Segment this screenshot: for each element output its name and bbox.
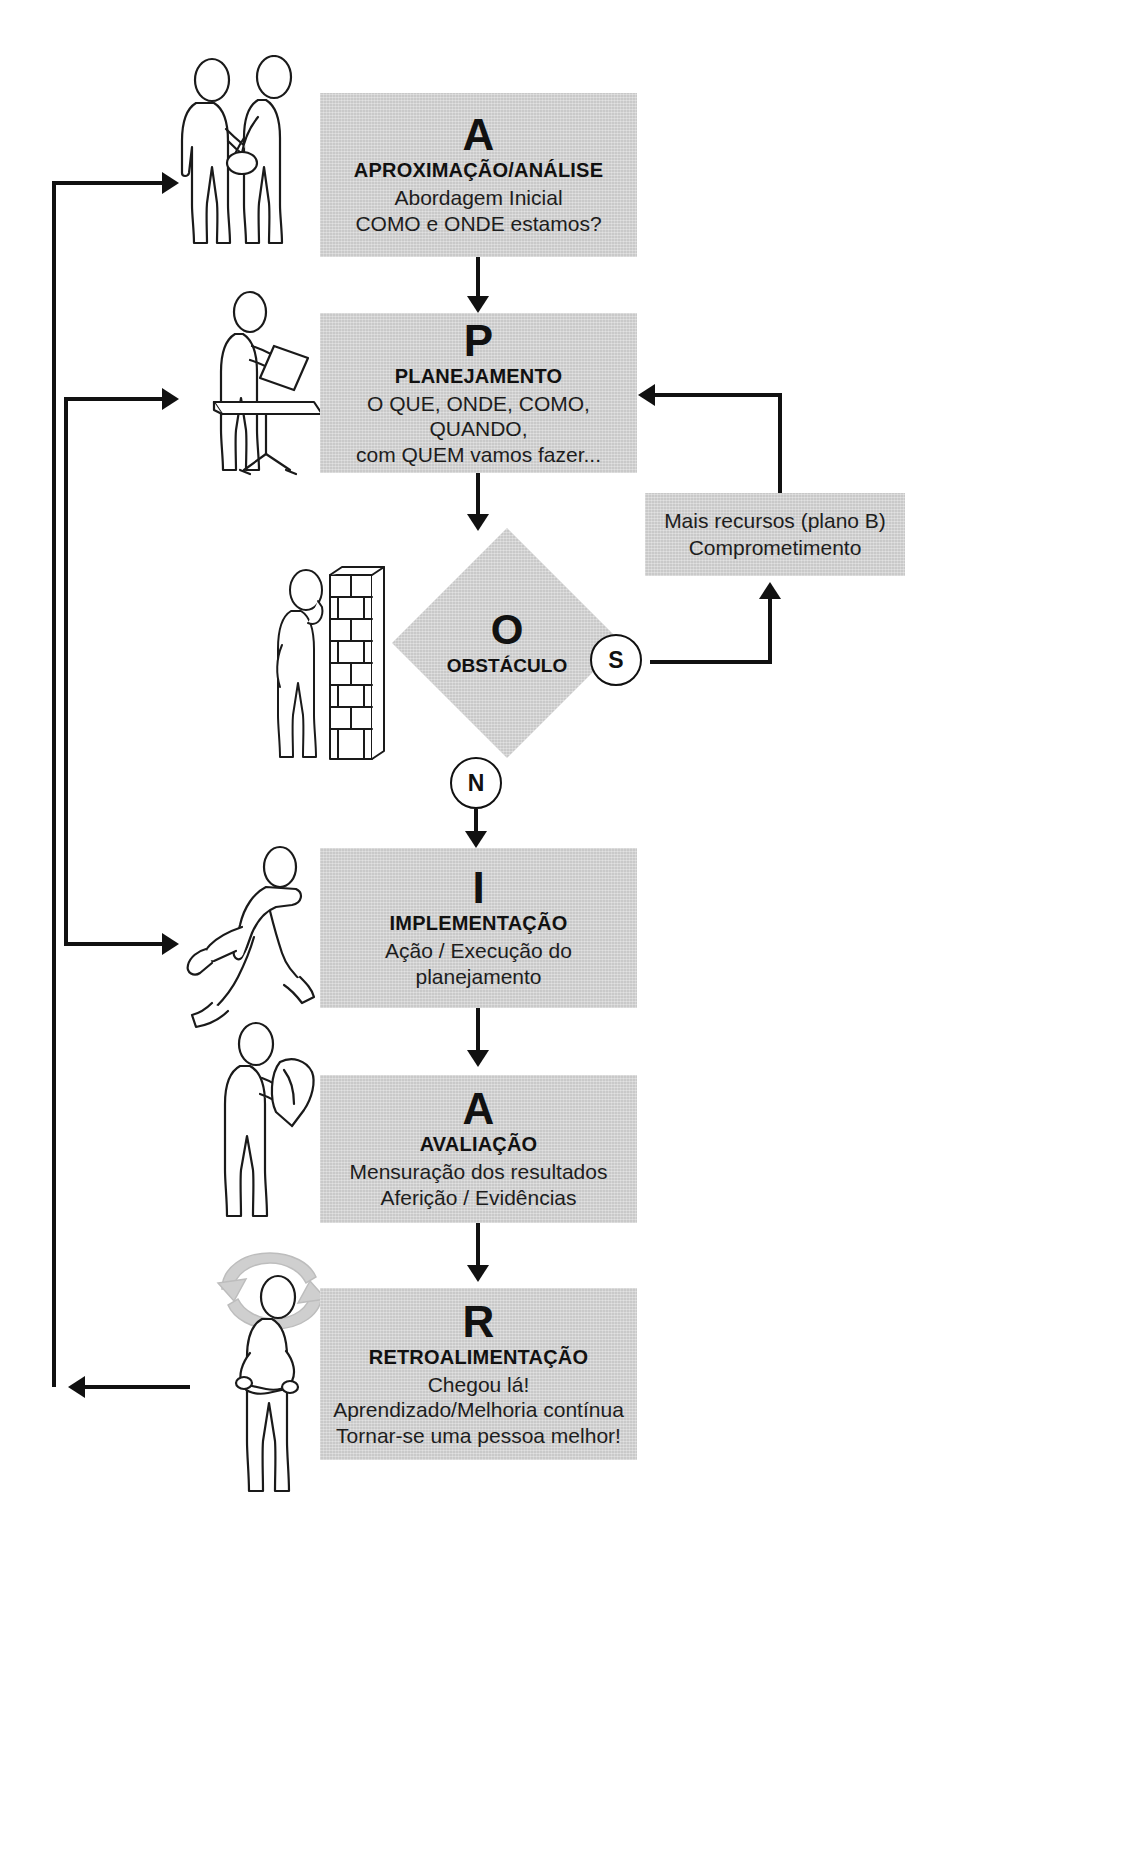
box-title: APROXIMAÇÃO/ANÁLISE	[354, 159, 603, 182]
process-box-avaliacao[interactable]: A AVALIAÇÃO Mensuração dos resultados Af…	[320, 1075, 637, 1223]
decision-no-label: N	[468, 770, 485, 797]
arrow-into-planejamento	[638, 384, 655, 406]
box-title: PLANEJAMENTO	[395, 365, 563, 388]
box-subline-1: O QUE, ONDE, COMO, QUANDO,	[328, 391, 629, 442]
box-subline-1: Mensuração dos resultados	[350, 1159, 608, 1185]
box-letter: P	[464, 319, 493, 363]
arrow-feedback-to-implementacao	[162, 933, 179, 955]
arrow-i-to-a	[467, 1050, 489, 1067]
handshake-figure	[170, 55, 320, 255]
feedback-branch-to-aproximacao	[52, 181, 164, 185]
process-box-aproximacao[interactable]: A APROXIMAÇÃO/ANÁLISE Abordagem Inicial …	[320, 93, 637, 257]
arrow-a-to-p	[467, 296, 489, 313]
connector-recursos-up	[778, 393, 782, 493]
box-title: OBSTÁCULO	[447, 655, 567, 677]
note-box-mais-recursos[interactable]: Mais recursos (plano B) Comprometimento	[645, 493, 905, 576]
box-letter: A	[463, 1087, 495, 1131]
feedback-left-rail	[52, 181, 56, 1387]
box-subline-2: COMO e ONDE estamos?	[355, 211, 601, 237]
running-person-figure	[182, 845, 332, 1030]
box-title: RETROALIMENTAÇÃO	[369, 1346, 588, 1369]
box-subline-2: com QUEM vamos fazer...	[356, 442, 601, 468]
box-letter: A	[463, 113, 495, 157]
arrow-feedback-bottom	[68, 1376, 85, 1398]
process-box-retroalimentacao[interactable]: R RETROALIMENTAÇÃO Chegou lá! Aprendizad…	[320, 1288, 637, 1460]
box-subline-2: planejamento	[415, 964, 541, 990]
note-line-1: Mais recursos (plano B)	[664, 508, 886, 534]
feedback-branch-to-planejamento	[64, 397, 164, 401]
connector-s-vertical	[768, 596, 772, 662]
box-subline-1: Abordagem Inicial	[394, 185, 562, 211]
feedback-bottom-horizontal	[85, 1385, 190, 1389]
box-letter: O	[491, 609, 524, 651]
box-subline-2: Aprendizado/Melhoria contínua	[333, 1397, 624, 1423]
diamond-label: O OBSTÁCULO	[392, 528, 622, 758]
connector-i-to-a	[476, 1008, 480, 1056]
connector-recursos-to-p	[655, 393, 782, 397]
decision-diamond-obstaculo[interactable]: O OBSTÁCULO	[392, 528, 622, 758]
box-subline-2: Aferição / Evidências	[380, 1185, 576, 1211]
decision-yes-label: S	[608, 647, 623, 674]
box-title: IMPLEMENTAÇÃO	[390, 912, 568, 935]
box-subline-3: Tornar-se uma pessoa melhor!	[336, 1423, 621, 1449]
feedback-secondary-rail	[64, 397, 68, 946]
arrow-feedback-to-planejamento	[162, 388, 179, 410]
arrow-n-to-i	[465, 831, 487, 848]
decision-circle-yes[interactable]: S	[590, 634, 642, 686]
note-line-2: Comprometimento	[689, 535, 862, 561]
box-letter: R	[463, 1300, 495, 1344]
connector-s-to-recursos	[650, 660, 772, 664]
person-at-desk-figure	[190, 290, 325, 480]
person-reading-figure	[200, 1020, 340, 1235]
connector-a-to-r	[476, 1223, 480, 1271]
process-box-planejamento[interactable]: P PLANEJAMENTO O QUE, ONDE, COMO, QUANDO…	[320, 313, 637, 473]
person-at-wall-figure	[268, 545, 408, 770]
box-subline-1: Ação / Execução do	[385, 938, 572, 964]
process-box-implementacao[interactable]: I IMPLEMENTAÇÃO Ação / Execução do plane…	[320, 848, 637, 1008]
box-title: AVALIAÇÃO	[420, 1133, 538, 1156]
box-subline-1: Chegou lá!	[428, 1372, 530, 1398]
decision-circle-no[interactable]: N	[450, 757, 502, 809]
arrow-feedback-to-aproximacao	[162, 172, 179, 194]
box-letter: I	[472, 866, 484, 910]
arrow-to-recursos	[759, 582, 781, 599]
arrow-a-to-r	[467, 1265, 489, 1282]
connector-p-to-o	[476, 473, 480, 520]
feedback-branch-to-implementacao	[64, 942, 164, 946]
diagram-canvas: A APROXIMAÇÃO/ANÁLISE Abordagem Inicial …	[0, 0, 1126, 1853]
